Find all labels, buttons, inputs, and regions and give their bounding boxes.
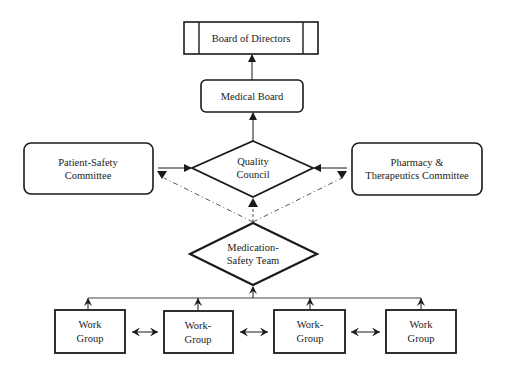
- node-work-group-2: Work- Group: [164, 311, 233, 353]
- arrow-to-patient-safety-icon: [157, 171, 167, 179]
- node-work-group-3: Work- Group: [274, 310, 345, 353]
- work-group-2-label-1: Work-: [185, 320, 212, 331]
- node-board-of-directors: Board of Directors: [184, 22, 318, 54]
- board-of-directors-label: Board of Directors: [212, 33, 291, 44]
- patient-safety-label-2: Committee: [65, 170, 112, 181]
- medication-safety-label-1: Medication-: [227, 242, 279, 253]
- patient-safety-label-1: Patient-Safety: [58, 157, 118, 168]
- node-quality-council: Quality Council: [192, 141, 313, 197]
- work-group-bus: [84, 286, 425, 310]
- node-medication-safety-team: Medication- Safety Team: [190, 223, 317, 285]
- arrow-to-pharmacy-icon: [337, 171, 347, 179]
- quality-council-label-1: Quality: [237, 156, 269, 167]
- node-patient-safety-committee: Patient-Safety Committee: [24, 143, 153, 194]
- quality-council-label-2: Council: [236, 169, 269, 180]
- medication-safety-label-2: Safety Team: [227, 255, 279, 266]
- pharmacy-label-1: Pharmacy &: [391, 157, 444, 168]
- node-work-group-4: Work Group: [386, 310, 456, 353]
- work-group-4-label-2: Group: [408, 333, 435, 344]
- arrow-to-quality-council-icon: [248, 198, 258, 207]
- work-group-1-label-2: Group: [77, 333, 104, 344]
- flowchart-canvas: Board of Directors Medical Board Patient…: [0, 0, 505, 371]
- medical-board-label: Medical Board: [221, 91, 284, 102]
- work-group-3-label-2: Group: [297, 333, 324, 344]
- node-pharmacy-therapeutics-committee: Pharmacy & Therapeutics Committee: [352, 143, 482, 195]
- node-medical-board: Medical Board: [201, 80, 303, 112]
- work-group-2-label-2: Group: [185, 334, 212, 345]
- work-group-3-label-1: Work-: [297, 319, 324, 330]
- work-group-4-label-1: Work: [409, 319, 433, 330]
- node-work-group-1: Work Group: [55, 310, 125, 353]
- work-group-1-label-1: Work: [78, 319, 102, 330]
- pharmacy-label-2: Therapeutics Committee: [365, 170, 469, 181]
